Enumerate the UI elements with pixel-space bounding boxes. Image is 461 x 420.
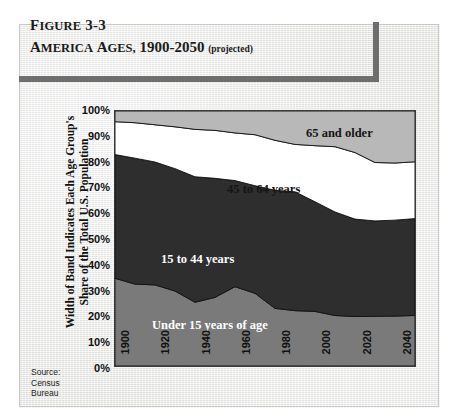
- y-tick-40: 40%: [62, 260, 110, 271]
- band-label-15-to-44: 15 to 44 years: [161, 252, 234, 267]
- title-years: 1900-2050: [136, 39, 205, 55]
- source-line-3: Bureau: [31, 388, 60, 399]
- x-tick-1960: 1960: [240, 330, 252, 370]
- y-tick-0: 0%: [62, 363, 110, 374]
- x-tick-2020: 2020: [361, 330, 373, 370]
- y-tick-90: 90%: [62, 131, 110, 142]
- y-tick-70: 70%: [62, 182, 110, 193]
- figure-number-value: 3-3: [81, 17, 106, 33]
- x-tick-1920: 1920: [159, 330, 171, 370]
- x-tick-2000: 2000: [320, 330, 332, 370]
- figure-number-initial: F: [30, 17, 39, 33]
- figure-title-block: FIGURE 3-3 AMERICA AGES, 1900-2050 (proj…: [30, 16, 370, 59]
- source-line-1: Source:: [31, 367, 60, 378]
- source-note: Source: Census Bureau: [31, 367, 60, 399]
- source-line-2: Census: [31, 378, 60, 389]
- band-label-45-to-64: 45 to 64 years: [227, 182, 300, 197]
- title-initial-a1: A: [30, 39, 41, 55]
- figure-title: AMERICA AGES, 1900-2050 (projected): [30, 37, 370, 59]
- x-tick-1900: 1900: [119, 330, 131, 370]
- y-tick-10: 10%: [62, 337, 110, 348]
- x-tick-1940: 1940: [200, 330, 212, 370]
- band-label-65-and-older: 65 and older: [306, 126, 373, 141]
- y-tick-100: 100%: [62, 105, 110, 116]
- y-tick-30: 30%: [62, 286, 110, 297]
- title-word-ages: GES,: [108, 41, 136, 55]
- figure-number-word: IGURE: [39, 19, 81, 33]
- y-tick-60: 60%: [62, 208, 110, 219]
- figure-number: FIGURE 3-3: [30, 16, 370, 36]
- y-axis-tick-labels: 0%10%20%30%40%50%60%70%80%90%100%: [62, 104, 110, 372]
- y-tick-50: 50%: [62, 234, 110, 245]
- x-tick-2040: 2040: [401, 330, 413, 370]
- y-tick-80: 80%: [62, 157, 110, 168]
- title-word-america: MERICA: [41, 41, 93, 55]
- x-tick-1980: 1980: [280, 330, 292, 370]
- title-rule-vertical: [373, 22, 379, 82]
- title-initial-a2: A: [97, 39, 108, 55]
- title-projected-note: (projected): [208, 44, 253, 54]
- y-tick-20: 20%: [62, 311, 110, 322]
